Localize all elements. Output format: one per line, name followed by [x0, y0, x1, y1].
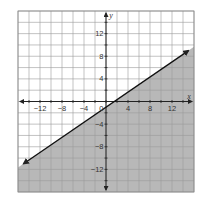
x-tick-label: −4	[80, 104, 89, 113]
origin-label: 0	[99, 104, 103, 113]
y-tick-label: −4	[95, 120, 104, 129]
y-tick-label: 4	[99, 74, 103, 83]
y-tick-label: 8	[99, 52, 103, 61]
y-tick-label: −12	[91, 165, 104, 174]
x-axis-label: x	[186, 92, 191, 101]
x-tick-label: 8	[148, 104, 152, 113]
x-tick-label: −8	[58, 104, 67, 113]
y-axis-label: y	[108, 11, 113, 20]
x-tick-label: 4	[126, 104, 130, 113]
y-tick-label: 12	[95, 29, 103, 38]
inequality-graph: −12−8−448121284−4−8−120xy	[0, 0, 201, 205]
y-tick-label: −8	[95, 142, 104, 151]
x-tick-label: 12	[168, 104, 176, 113]
x-tick-label: −12	[34, 104, 47, 113]
